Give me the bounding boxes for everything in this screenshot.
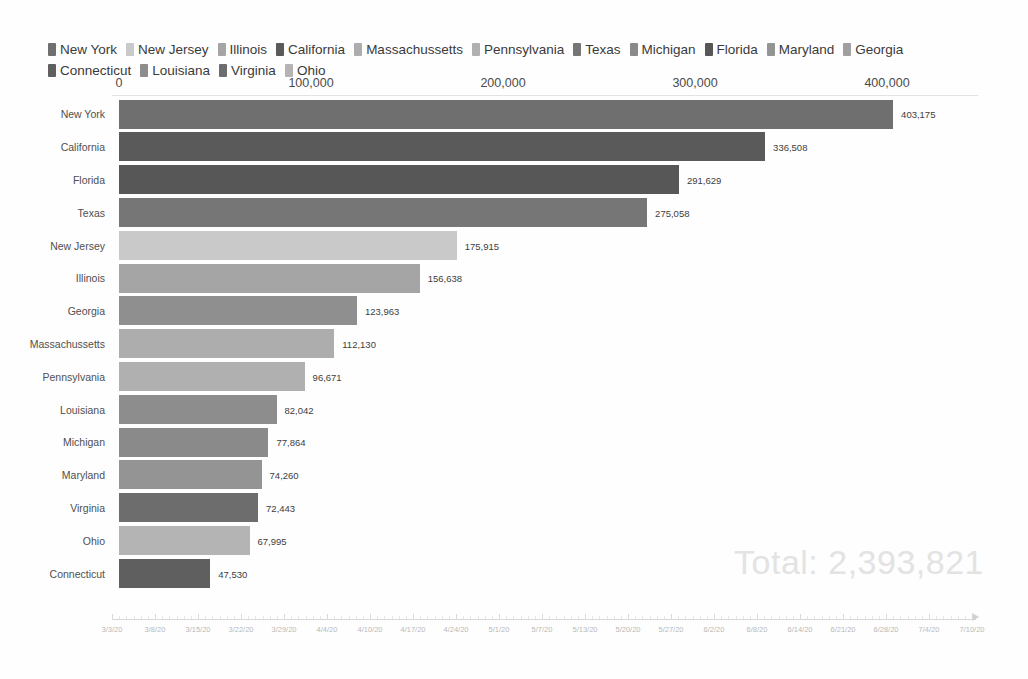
timeline-minor-tick	[728, 616, 729, 619]
bar-row[interactable]: Pennsylvania96,671	[0, 360, 1028, 393]
legend-swatch-icon	[354, 43, 362, 56]
timeline-minor-tick	[779, 616, 780, 619]
timeline-minor-tick	[427, 616, 428, 619]
legend-swatch-icon	[285, 64, 293, 77]
timeline-minor-tick	[169, 616, 170, 619]
bar[interactable]	[119, 428, 268, 457]
timeline-minor-tick	[829, 616, 830, 619]
legend-swatch-icon	[126, 43, 134, 56]
legend-item-label: Maryland	[779, 40, 835, 59]
legend-item[interactable]: Maryland	[767, 39, 835, 59]
timeline-minor-tick	[614, 616, 615, 619]
bar-chart-plot: New York403,175California336,508Florida2…	[0, 98, 1028, 590]
bar-row[interactable]: Texas275,058	[0, 196, 1028, 229]
legend-item-label: California	[288, 40, 345, 59]
timeline-minor-tick	[857, 616, 858, 619]
bar-value-label: 275,058	[655, 207, 689, 218]
bar-row[interactable]: Massachussetts112,130	[0, 328, 1028, 361]
bar-row[interactable]: Virginia72,443	[0, 492, 1028, 525]
bar-value-label: 123,963	[365, 306, 399, 317]
legend-item[interactable]: Florida	[705, 39, 758, 59]
timeline-minor-tick	[850, 616, 851, 619]
bar-value-label: 291,629	[687, 174, 721, 185]
legend-item[interactable]: New York	[48, 39, 117, 59]
bar-row-label: Ohio	[83, 535, 112, 547]
bar-row[interactable]: Georgia123,963	[0, 295, 1028, 328]
timeline-minor-tick	[392, 616, 393, 619]
bar[interactable]	[119, 460, 262, 489]
bar[interactable]	[119, 526, 250, 555]
timeline-minor-tick	[134, 616, 135, 619]
timeline-minor-tick	[958, 616, 959, 619]
legend-item[interactable]: New Jersey	[126, 39, 209, 59]
bar[interactable]	[119, 559, 210, 588]
legend-item-label: Georgia	[855, 40, 903, 59]
bar[interactable]	[119, 329, 334, 358]
bar-value-label: 82,042	[285, 404, 314, 415]
timeline-tick	[456, 614, 457, 620]
legend-swatch-icon	[705, 43, 713, 56]
timeline-tick	[499, 614, 500, 620]
bar-row[interactable]: New Jersey175,915	[0, 229, 1028, 262]
timeline-tick	[671, 614, 672, 620]
timeline-minor-tick	[234, 616, 235, 619]
bar-row-label: Maryland	[62, 469, 112, 481]
bar[interactable]	[119, 165, 679, 194]
bar-value-label: 96,671	[313, 371, 342, 382]
timeline-minor-tick	[220, 616, 221, 619]
timeline-minor-tick	[442, 616, 443, 619]
bar[interactable]	[119, 493, 258, 522]
bar-row-label: Illinois	[76, 272, 112, 284]
timeline-tick-label: 6/21/20	[830, 625, 855, 634]
timeline-minor-tick	[556, 616, 557, 619]
timeline-minor-tick	[227, 616, 228, 619]
bar-row[interactable]: Louisiana82,042	[0, 393, 1028, 426]
timeline-tick	[972, 614, 973, 620]
timeline-minor-tick	[915, 616, 916, 619]
bar-row-label: California	[61, 141, 112, 153]
bar[interactable]	[119, 395, 277, 424]
legend-item[interactable]: Pennsylvania	[472, 39, 564, 59]
bar[interactable]	[119, 362, 305, 391]
legend-item[interactable]: Massachussetts	[354, 39, 463, 59]
timeline-minor-tick	[900, 616, 901, 619]
timeline-minor-tick	[743, 616, 744, 619]
timeline-minor-tick	[786, 616, 787, 619]
bar[interactable]	[119, 100, 893, 129]
bar-row[interactable]: California336,508	[0, 131, 1028, 164]
bar[interactable]	[119, 264, 420, 293]
bar-row[interactable]: Florida291,629	[0, 164, 1028, 197]
legend-item-label: New Jersey	[138, 40, 209, 59]
timeline-minor-tick	[492, 616, 493, 619]
timeline-minor-tick	[528, 616, 529, 619]
legend-item-label: Massachussetts	[366, 40, 463, 59]
legend-item[interactable]: Georgia	[843, 39, 903, 59]
legend-item-label: New York	[60, 40, 117, 59]
timeline-minor-tick	[298, 616, 299, 619]
timeline-minor-tick	[313, 616, 314, 619]
bar-row[interactable]: Illinois156,638	[0, 262, 1028, 295]
legend-item[interactable]: California	[276, 39, 345, 59]
bar-row[interactable]: New York403,175	[0, 98, 1028, 131]
legend-swatch-icon	[48, 43, 56, 56]
bar[interactable]	[119, 231, 457, 260]
legend-swatch-icon	[573, 43, 581, 56]
bar-row[interactable]: Michigan77,864	[0, 426, 1028, 459]
timeline-tick	[628, 614, 629, 620]
bar-row-label: New Jersey	[50, 240, 112, 252]
bar[interactable]	[119, 296, 357, 325]
bar[interactable]	[119, 198, 647, 227]
bar-row-label: Massachussetts	[30, 338, 112, 350]
legend-item[interactable]: Michigan	[630, 39, 696, 59]
timeline-minor-tick	[248, 616, 249, 619]
timeline-minor-tick	[750, 616, 751, 619]
bar-row[interactable]: Maryland74,260	[0, 459, 1028, 492]
timeline-minor-tick	[449, 616, 450, 619]
bar[interactable]	[119, 132, 765, 161]
timeline-minor-tick	[270, 616, 271, 619]
legend-item[interactable]: Texas	[573, 39, 620, 59]
legend-item[interactable]: Illinois	[218, 39, 268, 59]
timeline-minor-tick	[356, 616, 357, 619]
legend-item-label: Pennsylvania	[484, 40, 564, 59]
timeline-tick-label: 6/2/20	[704, 625, 725, 634]
